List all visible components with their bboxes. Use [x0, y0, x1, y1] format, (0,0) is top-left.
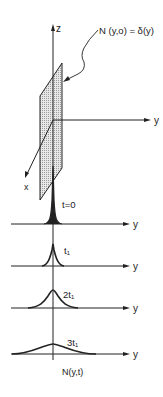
- curve-t1-label: t₁: [64, 245, 70, 256]
- source-plane: [40, 63, 62, 200]
- annotation-leader: [66, 30, 98, 80]
- curve-t0-label: t=0: [62, 199, 75, 210]
- y-axis-label: y: [154, 115, 159, 126]
- baseline-t0-arrow-icon: [123, 222, 130, 226]
- baseline-t1-arrow-icon: [123, 264, 130, 268]
- concentration-label: N(y,t): [62, 367, 83, 377]
- z-axis-label: z: [56, 23, 61, 34]
- annotation-arrow-icon: [63, 76, 70, 82]
- z-axis-arrow-icon: [51, 24, 55, 31]
- baseline-3t1-y-label: y: [133, 349, 138, 360]
- baseline-t1-y-label: y: [133, 261, 138, 272]
- curve-3t1: [12, 344, 96, 354]
- x-axis-label: x: [24, 182, 29, 192]
- initial-condition-label: N (y,o) = δ(y): [99, 25, 154, 36]
- baseline-t0-y-label: y: [133, 219, 138, 230]
- baseline-3t1-arrow-icon: [123, 352, 130, 356]
- y-axis-arrow-icon: [144, 118, 151, 122]
- baseline-2t1-arrow-icon: [123, 306, 130, 310]
- baseline-2t1-y-label: y: [133, 303, 138, 314]
- curve-3t1-label: 3t₁: [67, 337, 78, 348]
- diffusion-diagram: z y x N (y,o) = δ(y) y y y y t=0 t₁ 2t₁ …: [0, 0, 163, 397]
- curve-2t1-label: 2t₁: [63, 289, 74, 300]
